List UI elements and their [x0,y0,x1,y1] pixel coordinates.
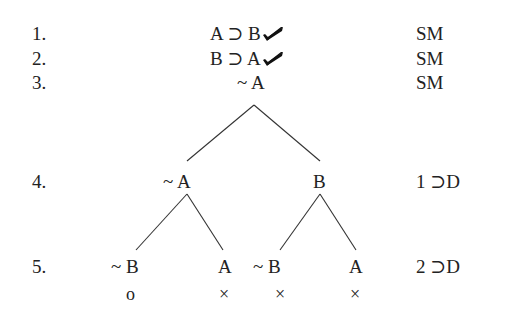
branch-5-2: A [218,257,232,276]
closed-branch-mark: × [350,285,360,303]
branch-5-4: A [349,257,363,276]
branch-4-left: ~ A [163,172,191,191]
branch-4-right: B [313,172,326,191]
closed-branch-mark: × [275,285,285,303]
open-branch-mark: o [126,285,135,303]
truth-tree-diagram: 1. 2. 3. 4. 5. A ⊃ B B ⊃ A ~ A SM SM SM … [0,0,511,319]
closed-branch-mark: × [219,285,229,303]
branch-5-1: ~ B [111,257,139,276]
branch-5-3: ~ B [253,257,281,276]
